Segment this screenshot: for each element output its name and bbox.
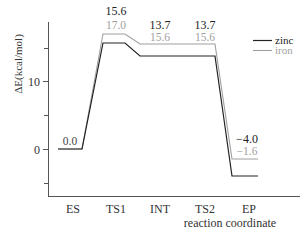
x-axis-label: reaction coordinate <box>184 216 276 230</box>
x-label-es: ES <box>66 202 80 216</box>
x-label-ep: EP <box>242 202 256 216</box>
legend-iron-label: iron <box>275 44 293 56</box>
int-zinc-label: 13.7 <box>150 18 171 32</box>
ep-iron-label: −1.6 <box>237 145 258 157</box>
legend: zinc iron <box>253 34 293 56</box>
x-label-int: INT <box>150 202 171 216</box>
y-axis-label: ΔE(kcal/mol) <box>12 34 25 94</box>
energy-profile-chart: 10 0 ΔE(kcal/mol) 0.0 15.6 17.0 13.7 15.… <box>0 0 303 233</box>
axes <box>43 22 300 197</box>
x-label-ts1: TS1 <box>106 202 126 216</box>
y-tick-label-10: 10 <box>28 75 40 89</box>
ep-zinc-label: −4.0 <box>236 132 258 146</box>
ts1-zinc-label: 15.6 <box>106 4 127 18</box>
ts1-iron-label: 17.0 <box>106 19 126 31</box>
iron-series-line <box>58 34 258 159</box>
int-iron-label: 15.6 <box>150 31 170 43</box>
ts2-iron-label: 15.6 <box>195 31 215 43</box>
ts2-zinc-label: 13.7 <box>195 18 216 32</box>
zinc-series-line <box>58 43 258 176</box>
y-tick-label-0: 0 <box>34 143 40 157</box>
es-label: 0.0 <box>63 135 78 147</box>
x-label-ts2: TS2 <box>195 202 215 216</box>
